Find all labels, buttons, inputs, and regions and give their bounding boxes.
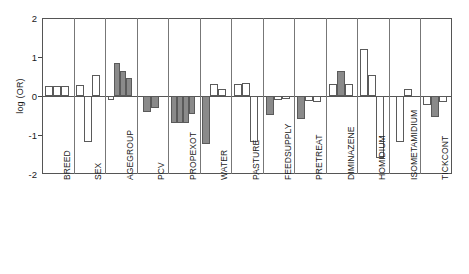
x-tick-label: HOMIDIUM: [377, 135, 387, 180]
bar: [274, 96, 282, 100]
x-tick-label: BREED: [62, 150, 72, 180]
chart-root: log (OR) 210-1-2 BREEDSEXAGEGROUPPCVPROP…: [0, 0, 469, 274]
bar: [92, 75, 100, 96]
bar: [242, 83, 250, 96]
x-tick-label: FEEDSUPPLY: [283, 123, 293, 180]
x-tick-label: PRETREAT: [314, 134, 324, 180]
bar: [431, 96, 439, 117]
group-divider: [389, 18, 390, 174]
bar: [234, 84, 242, 96]
x-tick-label: SEX: [93, 163, 103, 180]
x-tick-label: DIMINAZENE: [346, 127, 356, 180]
bar: [266, 96, 274, 115]
bar: [84, 96, 92, 142]
bar: [218, 89, 226, 96]
x-tick-label: PROPEXOT: [188, 132, 198, 180]
bar: [360, 49, 368, 96]
bar: [76, 85, 84, 96]
group-divider: [326, 18, 327, 174]
bar: [404, 89, 412, 96]
bar: [345, 84, 353, 96]
x-tick-label: PCV: [156, 162, 166, 180]
bar: [53, 86, 61, 96]
bar: [45, 86, 53, 96]
x-tick-label: WATER: [219, 150, 229, 180]
group-divider: [74, 18, 75, 174]
x-tick-label: ISOMETAMIDIUM: [409, 110, 419, 180]
y-tick-label: 1: [20, 52, 37, 63]
bar: [297, 96, 305, 119]
group-divider: [263, 18, 264, 174]
group-divider: [294, 18, 295, 174]
y-tick-label: -1: [20, 130, 37, 141]
bar: [189, 96, 195, 114]
bar: [108, 96, 114, 100]
bar: [143, 96, 151, 112]
y-tick-label: 2: [20, 13, 37, 24]
bar: [282, 96, 290, 99]
x-tick-label: AGEGROUP: [125, 130, 135, 180]
bar: [313, 96, 321, 102]
bar: [329, 84, 337, 96]
y-tick-label: -2: [20, 169, 37, 180]
bar: [202, 96, 210, 144]
group-divider: [200, 18, 201, 174]
bar: [151, 96, 159, 108]
x-tick-label: PASTURE: [251, 140, 261, 180]
bar: [423, 96, 431, 105]
bar: [337, 71, 345, 96]
bar: [126, 78, 132, 96]
bar: [439, 96, 447, 102]
bar: [305, 96, 313, 101]
bar: [396, 96, 404, 142]
group-divider: [105, 18, 106, 174]
y-tick-label: 0: [20, 91, 37, 102]
x-tick-label: TICKCONT: [440, 136, 450, 180]
group-divider: [420, 18, 421, 174]
bar: [368, 75, 376, 96]
zero-reference-line: [42, 96, 452, 97]
group-divider: [357, 18, 358, 174]
bar: [250, 96, 258, 142]
group-divider: [168, 18, 169, 174]
bar: [61, 86, 69, 96]
group-divider: [231, 18, 232, 174]
group-divider: [137, 18, 138, 174]
bar: [210, 84, 218, 96]
